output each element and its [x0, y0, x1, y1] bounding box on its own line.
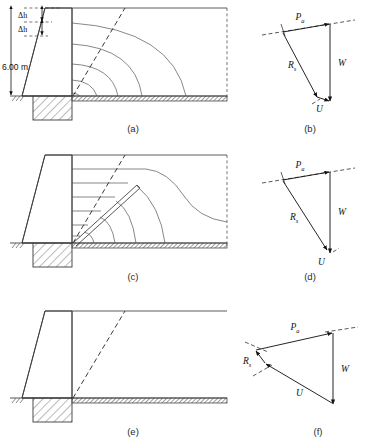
- retaining-wall-stem-e: [22, 311, 72, 398]
- equipotential-c-2: [100, 217, 115, 243]
- panel-c: (c): [10, 155, 227, 282]
- label-u-b: U: [316, 104, 324, 114]
- vector-rs-f: [256, 351, 265, 363]
- tick-mark-b: [281, 24, 285, 36]
- label-rs-f: Rs: [242, 356, 252, 368]
- label-w-b: W: [338, 58, 347, 68]
- inclined-drain-c: [73, 185, 140, 246]
- impermeable-base-stratum-c: [72, 243, 227, 248]
- panel-label-c: (c): [127, 271, 138, 282]
- panel-b: Pa W Rs U (b): [262, 12, 355, 134]
- label-w-f: W: [341, 364, 350, 374]
- guide-u-d: [333, 248, 339, 252]
- panel-label-e: (e): [127, 426, 139, 437]
- ground-hatch-symbol: [12, 96, 24, 101]
- label-delta-h-2: Δh: [18, 25, 27, 34]
- impermeable-base-stratum: [72, 96, 227, 101]
- panel-label-d: (d): [304, 271, 316, 282]
- wall-footing: [33, 96, 72, 120]
- guide-line-f-lower: [253, 365, 272, 376]
- guide-line-f-right: [325, 327, 358, 332]
- wall-footing-c: [33, 243, 72, 267]
- label-pa-b: Pa: [294, 12, 304, 24]
- panel-label-a: (a): [127, 123, 139, 134]
- figure-canvas: Δh Δh 6.00 m (a) Pa W: [0, 0, 370, 448]
- panel-label-b: (b): [304, 123, 316, 134]
- vector-pa-b: [283, 24, 329, 32]
- guide-line-f-left: [245, 342, 268, 352]
- label-pa-f: Pa: [289, 322, 299, 334]
- failure-plane-a: [73, 8, 125, 96]
- panel-d: Pa W Rs U (d): [262, 160, 355, 282]
- equipotential-c-4: [137, 186, 165, 243]
- label-rs-d: Rs: [289, 212, 299, 224]
- flow-net-equipotentials-c: [84, 186, 165, 243]
- label-u-f: U: [296, 388, 304, 398]
- panel-e: (e): [10, 311, 227, 437]
- label-w-d: W: [338, 207, 347, 217]
- retaining-wall-stem: [22, 8, 72, 96]
- panel-f: Pa W Rs U (f): [242, 322, 358, 437]
- vector-pa-d: [283, 172, 329, 180]
- equipotential-4: [72, 44, 142, 96]
- panel-a: Δh Δh 6.00 m (a): [2, 8, 227, 134]
- vector-pa-f: [256, 333, 332, 350]
- ground-hatch-symbol-c: [12, 243, 24, 248]
- label-pa-d: Pa: [294, 160, 304, 172]
- ground-hatch-symbol-e: [12, 398, 24, 403]
- label-total-height: 6.00 m: [2, 62, 28, 72]
- flow-net-equipotentials: [72, 23, 186, 96]
- retaining-wall-stem-c: [22, 155, 72, 243]
- failure-plane-c: [73, 155, 125, 243]
- phreatic-surface-c: [146, 169, 227, 222]
- label-rs-b: Rs: [287, 60, 297, 72]
- tick-mark-d: [281, 172, 285, 184]
- label-u-d: U: [318, 257, 326, 267]
- label-delta-h-1: Δh: [18, 11, 27, 20]
- panel-label-f: (f): [314, 426, 323, 437]
- impermeable-base-stratum-e: [72, 398, 227, 403]
- vector-u-b: [317, 97, 329, 101]
- wall-footing-e: [33, 398, 72, 422]
- failure-plane-e: [73, 311, 125, 398]
